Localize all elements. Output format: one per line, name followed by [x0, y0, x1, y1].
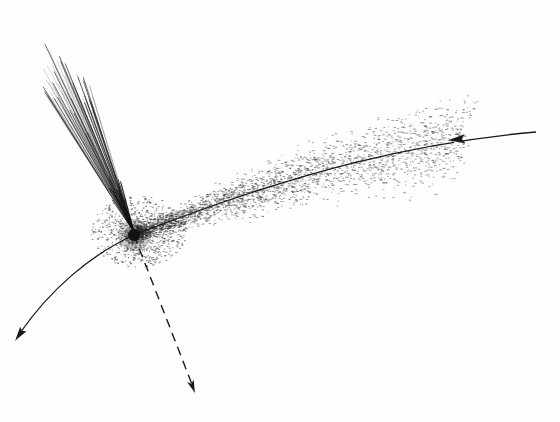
arrowhead-dashed-icon [187, 380, 198, 395]
comet-nucleus [128, 229, 140, 241]
arrowhead-outgoing-icon [12, 327, 27, 343]
nucleus-core [128, 229, 140, 241]
ion-tail [43, 44, 134, 232]
comet-illustration [0, 0, 560, 422]
comet-diagram [0, 0, 560, 422]
dashed-line [134, 235, 193, 387]
dashed-direction-arrow [134, 235, 198, 394]
